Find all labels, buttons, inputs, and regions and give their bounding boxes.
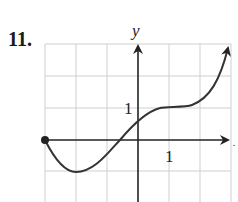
x-tick-1: 1 <box>165 147 174 166</box>
y-axis-label: y <box>130 21 140 40</box>
x-axis-label: . <box>233 137 236 148</box>
axes <box>45 46 228 202</box>
function-curve <box>45 48 228 172</box>
y-tick-1: 1 <box>124 99 133 118</box>
function-graph: y . 1 1 <box>0 0 238 202</box>
start-point-dot <box>41 136 49 144</box>
